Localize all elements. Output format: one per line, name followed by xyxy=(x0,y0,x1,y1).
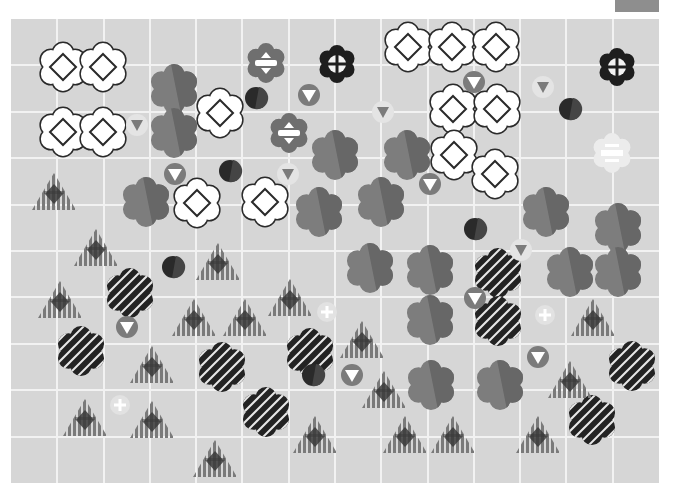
dark-striped-flower-icon[interactable] xyxy=(55,325,107,377)
dark-striped-flower-icon[interactable] xyxy=(606,340,658,392)
plus-circle-icon[interactable] xyxy=(315,300,339,324)
faint-equals-flower-icon[interactable] xyxy=(586,127,638,179)
dark-circle-icon[interactable] xyxy=(462,216,488,242)
gray-flower-icon[interactable] xyxy=(293,186,345,238)
plus-circle-icon[interactable] xyxy=(108,393,132,417)
gray-equals-flower-icon[interactable] xyxy=(263,107,315,159)
gray-flower-icon[interactable] xyxy=(404,244,456,296)
striped-triangle-icon[interactable] xyxy=(61,394,109,442)
corner-tab xyxy=(615,0,659,12)
gray-flower-icon[interactable] xyxy=(148,107,200,159)
gray-flower-icon[interactable] xyxy=(520,186,572,238)
light-circle-down-arrow-icon[interactable] xyxy=(508,237,534,263)
black-cross-flower-icon[interactable] xyxy=(311,38,363,90)
light-circle-down-arrow-icon[interactable] xyxy=(124,112,150,138)
gray-flower-icon[interactable] xyxy=(544,246,596,298)
gray-flower-icon[interactable] xyxy=(355,176,407,228)
dark-striped-flower-icon[interactable] xyxy=(104,267,156,319)
striped-triangle-icon[interactable] xyxy=(546,356,594,404)
striped-triangle-icon[interactable] xyxy=(191,435,239,483)
gray-flower-icon[interactable] xyxy=(344,242,396,294)
gray-flower-icon[interactable] xyxy=(405,359,457,411)
dark-circle-icon[interactable] xyxy=(557,96,583,122)
light-circle-down-arrow-icon[interactable] xyxy=(275,161,301,187)
striped-triangle-icon[interactable] xyxy=(429,411,477,459)
striped-triangle-icon[interactable] xyxy=(381,411,429,459)
plus-circle-icon[interactable] xyxy=(533,303,557,327)
striped-triangle-icon[interactable] xyxy=(569,294,617,342)
dark-circle-icon[interactable] xyxy=(217,158,243,184)
dark-striped-flower-icon[interactable] xyxy=(240,386,292,438)
dark-circle-icon[interactable] xyxy=(160,254,186,280)
gray-flower-icon[interactable] xyxy=(404,294,456,346)
striped-triangle-icon[interactable] xyxy=(128,396,176,444)
light-circle-down-arrow-icon[interactable] xyxy=(370,99,396,125)
gray-flower-icon[interactable] xyxy=(592,246,644,298)
gray-equals-flower-icon[interactable] xyxy=(240,37,292,89)
striped-triangle-icon[interactable] xyxy=(266,274,314,322)
gray-flower-icon[interactable] xyxy=(309,129,361,181)
white-diamond-flower-icon[interactable] xyxy=(194,87,246,139)
black-cross-flower-icon[interactable] xyxy=(591,41,643,93)
gray-circle-down-arrow-icon[interactable] xyxy=(461,69,487,95)
striped-triangle-icon[interactable] xyxy=(338,316,386,364)
striped-triangle-icon[interactable] xyxy=(72,224,120,272)
striped-triangle-icon[interactable] xyxy=(128,341,176,389)
striped-triangle-icon[interactable] xyxy=(221,294,269,342)
white-diamond-flower-icon[interactable] xyxy=(469,148,521,200)
white-diamond-flower-icon[interactable] xyxy=(77,41,129,93)
gray-circle-down-arrow-icon[interactable] xyxy=(162,161,188,187)
gray-circle-down-arrow-icon[interactable] xyxy=(417,171,443,197)
white-diamond-flower-icon[interactable] xyxy=(470,21,522,73)
striped-triangle-icon[interactable] xyxy=(194,238,242,286)
gray-flower-icon[interactable] xyxy=(474,359,526,411)
striped-triangle-icon[interactable] xyxy=(170,294,218,342)
dark-circle-icon[interactable] xyxy=(300,362,326,388)
gray-circle-down-arrow-icon[interactable] xyxy=(462,285,488,311)
striped-triangle-icon[interactable] xyxy=(291,411,339,459)
gray-circle-down-arrow-icon[interactable] xyxy=(339,362,365,388)
white-diamond-flower-icon[interactable] xyxy=(77,106,129,158)
light-circle-down-arrow-icon[interactable] xyxy=(530,74,556,100)
striped-triangle-icon[interactable] xyxy=(514,411,562,459)
striped-triangle-icon[interactable] xyxy=(360,366,408,414)
striped-triangle-icon[interactable] xyxy=(30,168,78,216)
game-board[interactable] xyxy=(11,19,659,483)
gray-circle-down-arrow-icon[interactable] xyxy=(525,344,551,370)
striped-triangle-icon[interactable] xyxy=(36,276,84,324)
gray-circle-down-arrow-icon[interactable] xyxy=(114,314,140,340)
